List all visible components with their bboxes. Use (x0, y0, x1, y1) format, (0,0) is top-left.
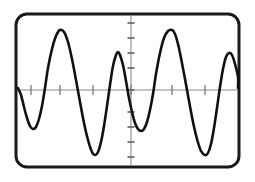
oscilloscope-figure: Composite periodic waveform shown on a r… (0, 0, 255, 182)
oscilloscope-screen (0, 0, 255, 182)
